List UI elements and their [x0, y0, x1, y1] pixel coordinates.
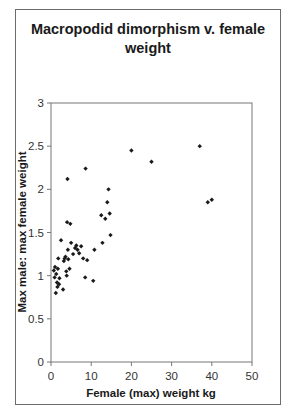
y-tick-label: 0.5 — [28, 313, 44, 325]
x-tick-label: 10 — [85, 370, 98, 382]
x-tick-label: 30 — [165, 370, 178, 382]
y-tick-label: 1 — [38, 270, 44, 282]
y-axis-title: Max male: max female weight — [16, 151, 28, 312]
data-point — [91, 279, 95, 283]
data-point — [66, 257, 70, 261]
data-point — [149, 160, 153, 164]
data-point — [64, 269, 68, 273]
plot-area — [51, 103, 252, 362]
y-tick-label: 1.5 — [28, 227, 44, 239]
data-point — [67, 267, 71, 271]
data-point — [100, 241, 104, 245]
data-points — [52, 144, 214, 295]
data-point — [99, 213, 103, 217]
data-point — [129, 148, 133, 152]
data-point — [52, 268, 56, 272]
data-point — [66, 248, 70, 252]
data-point — [81, 256, 85, 260]
x-tick-label: 0 — [48, 370, 54, 382]
data-point — [57, 276, 61, 280]
data-point — [69, 241, 73, 245]
data-point — [64, 273, 68, 277]
x-tick-label: 20 — [125, 370, 138, 382]
data-point — [107, 211, 111, 215]
data-point — [65, 177, 69, 181]
y-tick-label: 2.5 — [28, 140, 44, 152]
data-point — [83, 275, 87, 279]
data-point — [61, 287, 65, 291]
y-tick-label: 3 — [38, 97, 44, 109]
data-point — [54, 291, 58, 295]
data-point — [71, 252, 75, 256]
data-point — [198, 144, 202, 148]
y-tick-label: 2 — [38, 183, 44, 195]
data-point — [83, 166, 87, 170]
x-axis: 01020304050 — [48, 362, 259, 382]
data-point — [210, 197, 214, 201]
data-point — [85, 258, 89, 262]
scatter-plot: 00.511.522.53 01020304050 Female (max) w… — [0, 0, 290, 418]
data-point — [79, 244, 83, 248]
y-axis: 00.511.522.53 — [28, 97, 51, 368]
data-point — [106, 187, 110, 191]
data-point — [92, 248, 96, 252]
data-point — [108, 233, 112, 237]
data-point — [59, 238, 63, 242]
data-point — [206, 200, 210, 204]
data-point — [105, 200, 109, 204]
x-tick-label: 40 — [205, 370, 218, 382]
y-tick-label: 0 — [38, 356, 44, 368]
x-tick-label: 50 — [246, 370, 259, 382]
plot-border — [51, 103, 252, 362]
data-point — [103, 216, 107, 220]
x-axis-title: Female (max) weight kg — [86, 387, 216, 399]
data-point — [56, 256, 60, 260]
